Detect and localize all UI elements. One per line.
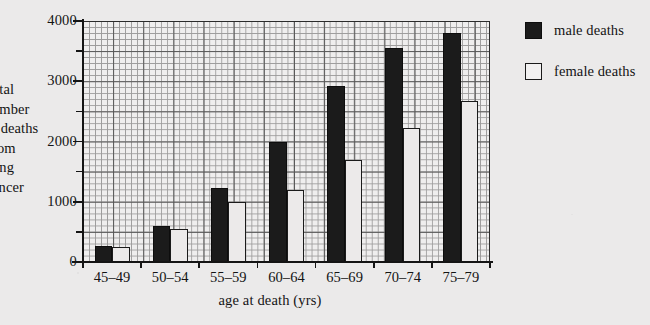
legend-item-male: male deaths (525, 22, 635, 39)
x-tick-7 (489, 262, 491, 268)
x-tick-2 (198, 262, 200, 268)
y-minor-tick-3500 (76, 50, 84, 51)
legend-label-male: male deaths (554, 23, 624, 38)
bar-male-45-49 (95, 246, 113, 262)
x-tick-3 (257, 262, 259, 268)
bar-female-45-49 (112, 247, 130, 262)
y-axis-title-line-3: rom (0, 139, 78, 159)
bar-male-50-54 (153, 226, 171, 262)
legend-label-female: female deaths (554, 64, 635, 79)
bar-male-55-59 (211, 188, 229, 262)
bar-male-75-79 (443, 33, 461, 262)
y-tick-label-0: 0 (70, 254, 77, 269)
legend-item-female: female deaths (525, 63, 635, 80)
y-axis-title-line-5: ancer (0, 178, 78, 198)
x-axis-title: age at death (yrs) (0, 292, 540, 309)
bar-female-70-74 (403, 128, 421, 262)
y-axis-title-line-4: ung (0, 158, 78, 178)
y-axis-title: otalumberf deathsromungancer (0, 80, 78, 197)
x-category-label-75-79: 75–79 (426, 270, 496, 285)
y-axis-title-line-2: f deaths (0, 119, 78, 139)
plot-area (83, 21, 490, 262)
bar-male-65-69 (327, 86, 345, 262)
bar-male-70-74 (385, 48, 403, 262)
y-axis-title-line-1: umber (0, 100, 78, 120)
x-axis-line (72, 261, 493, 263)
bar-male-60-64 (269, 142, 287, 263)
bar-female-50-54 (170, 229, 188, 262)
x-tick-0 (82, 262, 84, 268)
y-tick-label-4000: 4000 (47, 13, 77, 28)
male-deaths-swatch-icon (525, 22, 542, 39)
female-deaths-swatch-icon (525, 63, 542, 80)
x-tick-5 (373, 262, 375, 268)
x-tick-6 (431, 262, 433, 268)
y-minor-tick-500 (76, 231, 84, 232)
legend: male deaths female deaths (525, 22, 635, 104)
bar-female-55-59 (228, 202, 246, 262)
x-tick-1 (140, 262, 142, 268)
bar-female-65-69 (345, 160, 363, 262)
y-axis-title-line-0: otal (0, 80, 78, 100)
x-tick-4 (315, 262, 317, 268)
bar-female-75-79 (461, 101, 479, 262)
chart-page: 01000200030004000 45–4950–5455–5960–6465… (0, 0, 650, 325)
bar-female-60-64 (287, 190, 305, 262)
